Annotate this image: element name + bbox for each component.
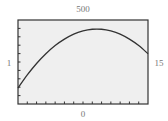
label-xmax: 15 — [155, 58, 165, 68]
label-ymax: 500 — [76, 4, 90, 14]
label-ymin: 0 — [81, 109, 86, 119]
label-xmin: 1 — [7, 58, 12, 68]
chart: 500 0 1 15 — [0, 0, 168, 121]
